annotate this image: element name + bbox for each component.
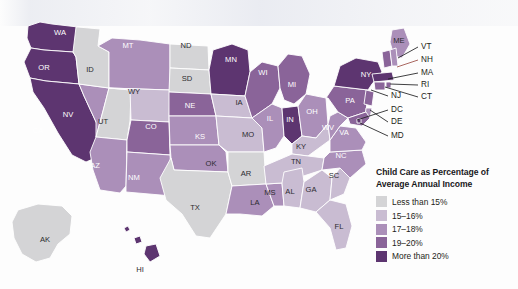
legend-item: More than 20% — [376, 250, 514, 264]
callout-label-ct: CT — [421, 92, 432, 101]
legend-swatch — [376, 210, 387, 221]
state-sd[interactable] — [169, 68, 211, 94]
state-id[interactable] — [73, 27, 109, 88]
leader-line-md — [360, 123, 388, 136]
state-nd[interactable] — [170, 44, 209, 70]
legend-swatch — [376, 251, 387, 262]
state-mt[interactable] — [98, 38, 170, 90]
state-label-hi: HI — [136, 265, 144, 274]
callout-label-ma: MA — [421, 68, 434, 77]
state-ak[interactable] — [12, 204, 72, 262]
choropleth-map-figure: WAORCANVIDUTAZMTWYCONMNDSDNEKSOKTXMNIAMO… — [0, 0, 518, 289]
callout-label-nh: NH — [421, 55, 433, 64]
state-wa[interactable] — [27, 22, 78, 52]
callout-label-vt: VT — [421, 42, 431, 51]
legend-title-line-1: Child Care as Percentage of — [376, 167, 514, 179]
state-co[interactable] — [127, 120, 170, 155]
legend-title-line-2: Average Annual Income — [376, 179, 514, 191]
legend-item: 19–20% — [376, 236, 514, 250]
callout-label-nj: NJ — [391, 91, 401, 100]
legend-label: Less than 15% — [392, 197, 447, 207]
legend-swatch — [376, 237, 387, 248]
state-hi[interactable] — [124, 226, 160, 262]
legend-item: Less than 15% — [376, 195, 514, 209]
legend-item: 17–18% — [376, 222, 514, 236]
state-az[interactable] — [90, 137, 127, 193]
state-ks[interactable] — [169, 116, 219, 145]
state-ar[interactable] — [228, 152, 266, 186]
legend-label: 15–16% — [392, 211, 423, 221]
state-la[interactable] — [226, 184, 274, 216]
legend-title: Child Care as Percentage of Average Annu… — [376, 167, 514, 190]
legend-swatch — [376, 224, 387, 235]
map-legend: Child Care as Percentage of Average Annu… — [376, 167, 514, 263]
state-ct[interactable] — [374, 82, 385, 90]
state-mn[interactable] — [209, 44, 250, 96]
legend-label: 19–20% — [392, 238, 423, 248]
leader-line-de — [370, 110, 388, 122]
legend-label: 17–18% — [392, 224, 423, 234]
state-label-ca: CA — [33, 126, 44, 135]
callout-label-md: MD — [391, 131, 404, 140]
state-nj[interactable] — [364, 90, 374, 106]
callout-label-ri: RI — [421, 80, 429, 89]
legend-items: Less than 15%15–16%17–18%19–20%More than… — [376, 195, 514, 263]
state-shapes-group — [12, 22, 410, 262]
legend-item: 15–16% — [376, 209, 514, 223]
callout-label-dc: DC — [391, 105, 403, 114]
state-ma[interactable] — [372, 72, 394, 82]
state-ne[interactable] — [169, 92, 216, 116]
state-ok[interactable] — [170, 145, 228, 172]
legend-label: More than 20% — [392, 251, 449, 261]
leader-line-ct — [385, 87, 418, 97]
state-fl[interactable] — [316, 200, 352, 250]
leader-line-ri — [390, 84, 418, 85]
callout-label-de: DE — [391, 117, 403, 126]
legend-swatch — [376, 196, 387, 207]
leader-line-nh — [397, 60, 418, 67]
